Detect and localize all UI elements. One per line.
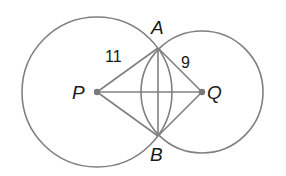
label-p: P bbox=[72, 82, 85, 103]
point-q bbox=[199, 89, 205, 95]
segment-pb bbox=[97, 92, 158, 136]
label-b: B bbox=[150, 144, 163, 165]
measure-pa: 11 bbox=[105, 48, 122, 65]
segment-qa bbox=[158, 48, 202, 92]
label-q: Q bbox=[207, 82, 222, 103]
geometry-diagram: A B P Q 11 9 bbox=[0, 0, 286, 176]
measure-qa: 9 bbox=[181, 54, 190, 71]
segment-qb bbox=[158, 92, 202, 136]
label-a: A bbox=[150, 17, 164, 38]
point-p bbox=[94, 89, 100, 95]
